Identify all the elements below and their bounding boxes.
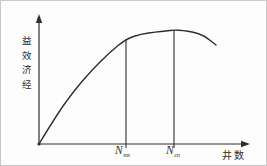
vline-label-n-co: Nco [166, 144, 179, 156]
chart-svg [1, 1, 266, 165]
vline-label-main: N [166, 144, 174, 156]
vline-label-subscript: ms [123, 151, 130, 158]
vline-label-main: N [115, 144, 123, 156]
vline-label-n-ms: Nms [115, 144, 129, 156]
y-axis-arrowhead-icon [36, 14, 42, 23]
vline-label-subscript: co [174, 151, 180, 158]
figure-canvas: 益效济经 井数 Nms Nco [0, 0, 267, 166]
benefit-curve [39, 30, 216, 144]
y-axis-label: 益效济经 [20, 34, 33, 92]
x-axis-label: 井数 [222, 147, 245, 162]
